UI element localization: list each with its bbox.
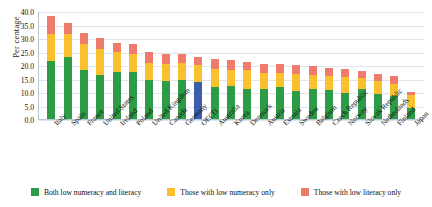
bar-segment xyxy=(129,54,137,73)
bar-segment xyxy=(178,63,186,81)
bar-segment xyxy=(374,74,382,81)
bar-segment xyxy=(113,43,121,52)
y-axis-tick-label: 20.0 xyxy=(0,62,34,71)
bar-segment xyxy=(390,76,398,84)
bar-segment xyxy=(341,69,349,77)
bar-segment xyxy=(276,64,284,73)
bar-segment xyxy=(309,75,317,89)
bar-segment xyxy=(243,70,251,88)
y-axis-tick-label: 30.0 xyxy=(0,35,34,44)
bar-segment xyxy=(374,81,382,93)
x-axis-category-labels: ItalySpainFranceUnited StatesIrelandPola… xyxy=(38,121,424,179)
bar-segment xyxy=(113,52,121,72)
legend-item[interactable]: Both low numeracy and literacy xyxy=(31,188,141,197)
chart-legend: Both low numeracy and literacyThose with… xyxy=(0,184,432,200)
bar-segment xyxy=(80,33,88,44)
bar-segment xyxy=(211,59,219,69)
bar-segment xyxy=(292,65,300,74)
bar-segment xyxy=(47,61,55,119)
bar-segment xyxy=(341,77,349,92)
bar-segment xyxy=(194,65,202,82)
y-axis-tick-label: 0.0 xyxy=(0,116,34,125)
y-axis-tick-label: 5.0 xyxy=(0,102,34,111)
bar-segment xyxy=(243,62,251,71)
bar-series-container xyxy=(39,12,424,119)
bar-segment xyxy=(129,44,137,54)
legend-label: Those with low numeracy only xyxy=(180,188,274,197)
bar-segment xyxy=(80,44,88,69)
bar-segment xyxy=(309,66,317,75)
bar-segment xyxy=(407,92,415,95)
legend-label: Those with low literacy only xyxy=(314,188,401,197)
bar-segment xyxy=(47,16,55,34)
bar-segment xyxy=(227,70,235,86)
y-axis-tick-label: 25.0 xyxy=(0,48,34,57)
legend-swatch xyxy=(31,188,39,196)
bar-segment xyxy=(162,54,170,64)
legend-swatch xyxy=(301,188,309,196)
y-axis-tick-label: 10.0 xyxy=(0,89,34,98)
plot-area xyxy=(38,12,424,120)
bar-segment xyxy=(358,71,366,79)
bar-segment xyxy=(64,57,72,119)
bar-segment xyxy=(64,23,72,34)
stacked-bar-chart: Per centage 40.035.030.025.020.015.010.0… xyxy=(0,0,432,207)
bar-segment xyxy=(162,64,170,82)
bar-segment xyxy=(64,34,72,57)
bar-segment xyxy=(358,78,366,88)
bar-segment xyxy=(96,38,104,49)
bar-segment xyxy=(325,68,333,76)
bar-segment xyxy=(325,76,333,90)
bar-segment xyxy=(260,73,268,89)
bar-segment xyxy=(276,73,284,87)
legend-item[interactable]: Those with low literacy only xyxy=(301,188,401,197)
y-axis-tick-label: 15.0 xyxy=(0,75,34,84)
legend-swatch xyxy=(167,188,175,196)
legend-item[interactable]: Those with low numeracy only xyxy=(167,188,274,197)
bar-segment xyxy=(211,69,219,87)
y-axis-tick-label: 35.0 xyxy=(0,21,34,30)
bar-segment xyxy=(96,49,104,75)
bar-segment xyxy=(260,64,268,73)
bar-segment xyxy=(145,63,153,80)
legend-label: Both low numeracy and literacy xyxy=(44,188,141,197)
bar-segment xyxy=(292,74,300,91)
y-axis-tick-label: 40.0 xyxy=(0,8,34,17)
bar-segment xyxy=(194,57,202,65)
bar-segment xyxy=(178,54,186,63)
bar-segment xyxy=(47,34,55,61)
bar-segment xyxy=(227,60,235,69)
bar-segment xyxy=(145,52,153,62)
